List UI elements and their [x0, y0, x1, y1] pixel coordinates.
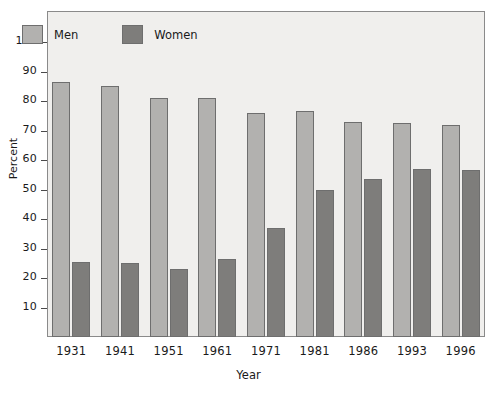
y-tick-mark: [41, 101, 47, 102]
y-tick-label: 10: [23, 300, 37, 313]
x-tick-label-1996: 1996: [431, 344, 491, 358]
cropped-caption-strip: [0, 0, 497, 9]
y-tick-label: 80: [23, 93, 37, 106]
bar-women-1971: [267, 228, 285, 337]
y-tick-mark: [41, 190, 47, 191]
legend-swatch-women-icon: [122, 25, 143, 44]
bar-men-1993: [393, 123, 411, 337]
legend-swatch-men-icon: [22, 25, 43, 44]
y-axis-title: Percent: [7, 124, 20, 194]
bar-women-1981: [316, 190, 334, 338]
bar-women-1993: [413, 169, 431, 337]
y-tick-label: 90: [23, 64, 37, 77]
y-tick-mark: [41, 308, 47, 309]
y-tick-label: 60: [23, 152, 37, 165]
y-tick-mark: [41, 131, 47, 132]
y-tick-label: 50: [23, 182, 37, 195]
y-tick-mark: [41, 160, 47, 161]
legend: Men Women: [22, 25, 198, 44]
bar-women-1986: [364, 179, 382, 337]
bar-men-1961: [198, 98, 216, 337]
y-tick-mark: [41, 278, 47, 279]
y-tick-label: 20: [23, 270, 37, 283]
legend-label-women: Women: [154, 28, 197, 42]
bar-women-1996: [462, 170, 480, 337]
bar-men-1986: [344, 122, 362, 337]
y-tick-mark: [41, 72, 47, 73]
y-tick-label: 30: [23, 241, 37, 254]
y-tick-mark: [41, 249, 47, 250]
bar-men-1971: [247, 113, 265, 337]
bar-women-1961: [218, 259, 236, 337]
legend-entry-women: Women: [122, 25, 197, 44]
bar-men-1931: [52, 82, 70, 337]
y-tick-label: 40: [23, 211, 37, 224]
y-tick-mark: [41, 219, 47, 220]
legend-entry-men: Men: [22, 25, 78, 44]
legend-label-men: Men: [54, 28, 78, 42]
bar-women-1931: [72, 262, 90, 337]
bar-women-1941: [121, 263, 139, 337]
y-tick-label: 70: [23, 123, 37, 136]
bar-men-1981: [296, 111, 314, 337]
bar-women-1951: [170, 269, 188, 337]
x-axis-title: Year: [0, 368, 497, 382]
bar-men-1951: [150, 98, 168, 337]
bar-men-1941: [101, 86, 119, 337]
bar-chart: Percent 102030405060708090100 1931194119…: [0, 0, 497, 397]
bar-men-1996: [442, 125, 460, 337]
